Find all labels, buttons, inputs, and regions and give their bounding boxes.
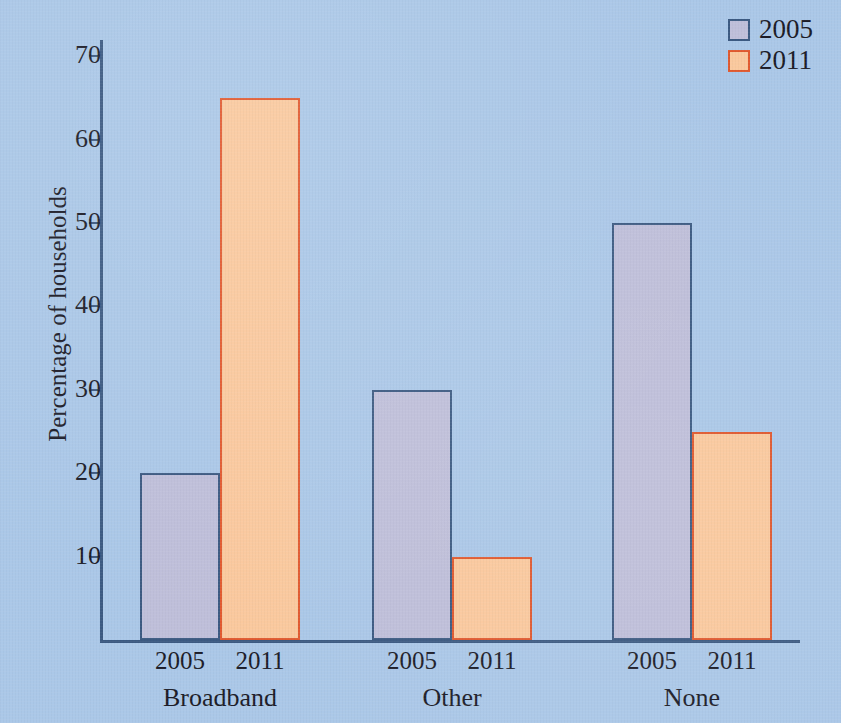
bar-broadband-2005[interactable] (140, 473, 220, 640)
legend-label-2005: 2005 (759, 16, 813, 43)
y-tick-label-40: 40 (55, 292, 101, 318)
group-label-broadband: Broadband (140, 682, 300, 714)
y-tick-label-10: 10 (55, 543, 101, 569)
legend-swatch-icon-2011 (728, 50, 750, 72)
bar-chart: Percentage of households 10203040506070 … (0, 0, 841, 723)
y-tick-label-20: 20 (55, 459, 101, 485)
y-tick-label-70: 70 (55, 42, 101, 68)
legend-item-2005[interactable]: 2005 (728, 14, 813, 45)
legend-label-2011: 2011 (759, 47, 812, 74)
bar-none-2005[interactable] (612, 223, 692, 640)
bar-other-2005[interactable] (372, 390, 452, 640)
series-label-other-2011: 2011 (452, 646, 532, 676)
y-tick-label-60: 60 (55, 126, 101, 152)
y-tick-label-wrap-60: 60 (0, 126, 101, 152)
group-label-other: Other (372, 682, 532, 714)
y-tick-label-wrap-70: 70 (0, 42, 101, 68)
y-tick-label-wrap-20: 20 (0, 459, 101, 485)
category-labels: 20052011Broadband20052011Other20052011No… (100, 646, 800, 723)
series-label-none-2005: 2005 (612, 646, 692, 676)
y-tick-label-30: 30 (55, 376, 101, 402)
bar-other-2011[interactable] (452, 557, 532, 640)
y-tick-label-wrap-10: 10 (0, 543, 101, 569)
series-label-none-2011: 2011 (692, 646, 772, 676)
legend-swatch-icon-2005 (728, 19, 750, 41)
bars-layer (100, 0, 800, 641)
series-label-other-2005: 2005 (372, 646, 452, 676)
y-tick-label-wrap-30: 30 (0, 376, 101, 402)
group-label-none: None (612, 682, 772, 714)
chart-legend: 2005 2011 (728, 14, 813, 76)
bar-broadband-2011[interactable] (220, 98, 300, 640)
y-tick-label-wrap-50: 50 (0, 209, 101, 235)
series-label-broadband-2011: 2011 (220, 646, 300, 676)
bar-none-2011[interactable] (692, 432, 772, 641)
y-tick-label-50: 50 (55, 209, 101, 235)
series-label-broadband-2005: 2005 (140, 646, 220, 676)
legend-item-2011[interactable]: 2011 (728, 45, 813, 76)
y-tick-label-wrap-40: 40 (0, 292, 101, 318)
